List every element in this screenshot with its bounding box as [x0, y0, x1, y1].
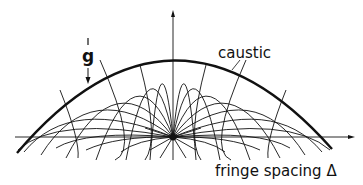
- trajectory: [173, 137, 186, 158]
- trajectory: [150, 137, 173, 150]
- vertical-axis-arrow-icon: [171, 10, 175, 17]
- wavefront: [195, 65, 206, 160]
- trajectory: [96, 96, 173, 160]
- caustic-diagram: caustic g fringe spacing Δ: [0, 0, 363, 185]
- horizontal-axis-arrow-icon: [348, 135, 355, 139]
- trajectory: [18, 129, 173, 150]
- wavefront: [268, 90, 286, 158]
- trajectory: [173, 96, 250, 160]
- gravity-label: g: [82, 46, 94, 66]
- wavefront: [140, 65, 151, 160]
- caustic-label: caustic: [218, 44, 271, 62]
- trajectory: [173, 137, 196, 150]
- x-axis-label: fringe spacing Δ: [215, 162, 337, 180]
- trajectories: [18, 84, 330, 160]
- gravity-down-arrow-icon: [86, 77, 91, 84]
- wavefront: [60, 90, 78, 158]
- source-point: [170, 134, 177, 141]
- trajectory: [160, 137, 173, 158]
